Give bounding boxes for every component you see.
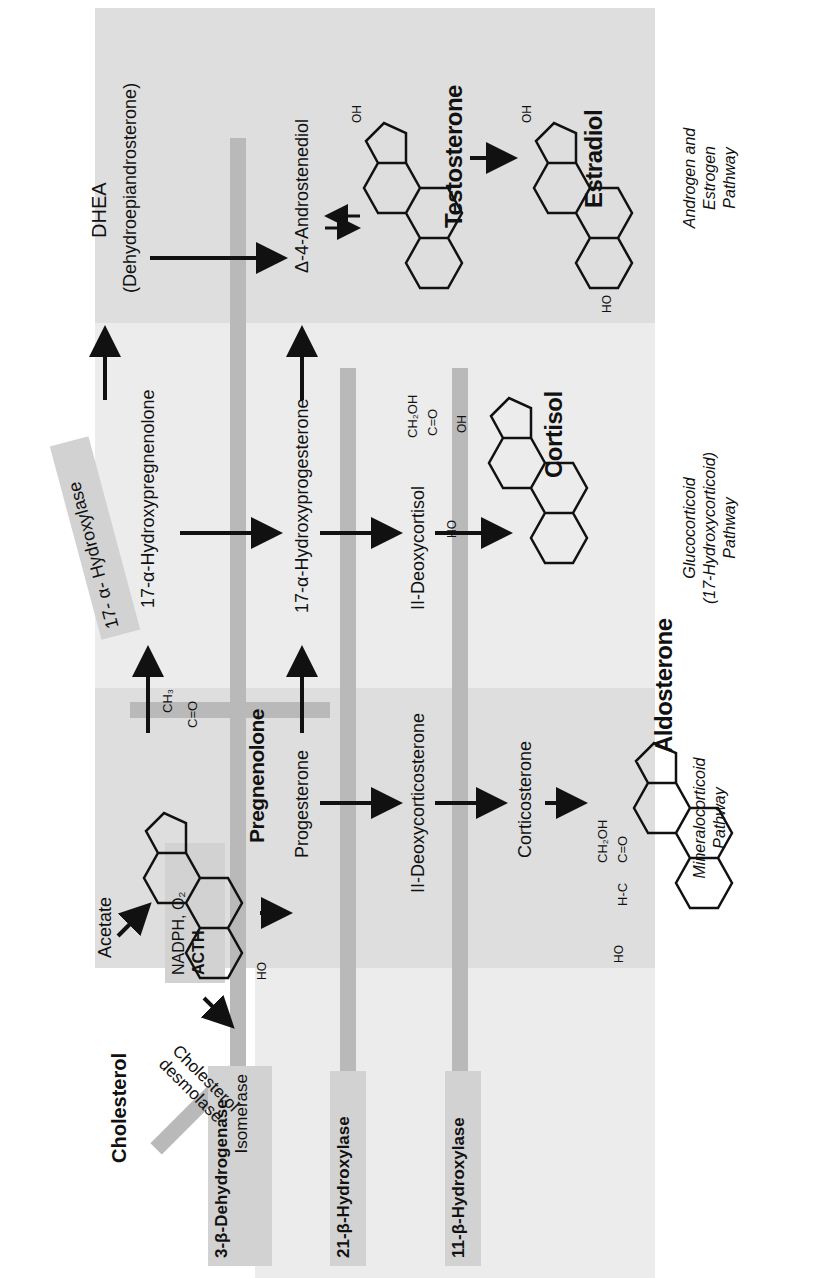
arrow-icons bbox=[105, 158, 580, 1023]
arrows-and-structures bbox=[0, 0, 831, 1278]
steroid-pathway-diagram: 3-β-Dehydrogenase Isomerase 21-β-Hydroxy… bbox=[0, 0, 831, 1278]
steroid-ring-structures bbox=[144, 123, 732, 978]
